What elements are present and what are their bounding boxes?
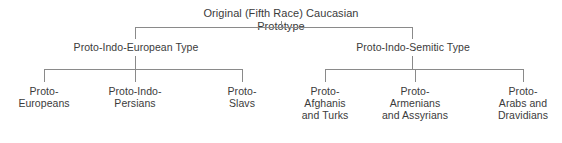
leaf-node-label-proto-arabs-dravidians: Proto- Arabs and Dravidians	[486, 85, 560, 122]
leaf-node-label-proto-indo-persians: Proto-Indo- Persians	[93, 85, 177, 109]
connector-left-leaf2-drop	[135, 69, 136, 82]
branch-node-label-indo-european: Proto-Indo-European Type	[55, 41, 217, 54]
connector-branch-left-drop	[135, 27, 136, 39]
connector-right-leaf-bracket	[325, 69, 524, 70]
connector-right-leaf2-drop	[415, 69, 416, 82]
connector-branch-right-drop	[412, 27, 413, 39]
connector-left-branch-stem	[135, 56, 136, 69]
hierarchy-diagram: Original (Fifth Race) Caucasian Prototyp…	[0, 0, 562, 143]
connector-left-leaf1-drop	[44, 69, 45, 82]
connector-right-leaf3-drop	[523, 69, 524, 82]
connector-level1-bracket	[135, 27, 413, 28]
root-node-label: Original (Fifth Race) Caucasian Prototyp…	[181, 7, 381, 33]
connector-left-leaf3-drop	[242, 69, 243, 82]
leaf-node-label-proto-europeans: Proto- Europeans	[2, 85, 86, 109]
leaf-node-label-proto-afghanis-turks: Proto- Afghanis and Turks	[288, 85, 362, 122]
connector-right-branch-stem	[412, 56, 413, 69]
connector-left-leaf-bracket	[44, 69, 243, 70]
connector-right-leaf1-drop	[325, 69, 326, 82]
leaf-node-label-proto-armenians-assyrians: Proto- Armenians and Assyrians	[367, 85, 463, 122]
branch-node-label-indo-semitic: Proto-Indo-Semitic Type	[334, 41, 492, 54]
leaf-node-label-proto-slavs: Proto- Slavs	[205, 85, 279, 109]
